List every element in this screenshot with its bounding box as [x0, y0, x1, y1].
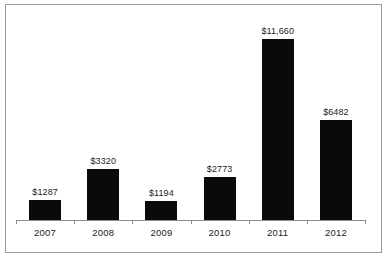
x-tick-label-2007: 2007 — [16, 226, 74, 240]
x-axis-tick-labels: 200720082009201020112012 — [16, 226, 365, 242]
bar-value-label: $1287 — [32, 187, 58, 198]
axis-tick — [365, 220, 366, 224]
bar-rect — [29, 200, 61, 220]
axis-tick — [132, 220, 133, 224]
bar-value-label: $1194 — [149, 188, 174, 199]
x-tick-label-2011: 2011 — [249, 226, 307, 240]
bar-group: $11,660 — [249, 14, 307, 220]
x-tick-label-2010: 2010 — [191, 226, 249, 240]
bar-rect — [87, 169, 119, 220]
plot-area: $1287$3320$1194$2773$11,660$6482 — [16, 14, 365, 220]
bar-column: $3320 — [74, 14, 132, 220]
axis-tick — [74, 220, 75, 224]
bar-column: $1287 — [16, 14, 74, 220]
bar-rect — [145, 201, 177, 220]
bar-group: $6482 — [307, 14, 365, 220]
bar-rect — [204, 177, 236, 220]
bar-group: $1287 — [16, 14, 74, 220]
axis-tick — [191, 220, 192, 224]
bar-value-label: $2773 — [207, 164, 233, 175]
bar-group: $3320 — [74, 14, 132, 220]
bar-value-label: $11,660 — [261, 26, 294, 37]
bar-column: $6482 — [307, 14, 365, 220]
axis-tick — [16, 220, 17, 224]
bar-value-label: $3320 — [90, 156, 116, 167]
x-tick-label-2012: 2012 — [307, 226, 365, 240]
bar-chart-figure: $1287$3320$1194$2773$11,660$6482 2007200… — [0, 0, 387, 258]
bar-value-label: $6482 — [323, 107, 349, 118]
bar-group: $2773 — [191, 14, 249, 220]
bar-rect — [262, 39, 294, 220]
x-tick-label-2008: 2008 — [74, 226, 132, 240]
bar-column: $2773 — [191, 14, 249, 220]
axis-tick — [249, 220, 250, 224]
axis-tick — [307, 220, 308, 224]
bar-rect — [320, 120, 352, 220]
bar-column: $11,660 — [249, 14, 307, 220]
x-tick-label-2009: 2009 — [132, 226, 190, 240]
bar-group: $1194 — [132, 14, 190, 220]
bar-column: $1194 — [132, 14, 190, 220]
